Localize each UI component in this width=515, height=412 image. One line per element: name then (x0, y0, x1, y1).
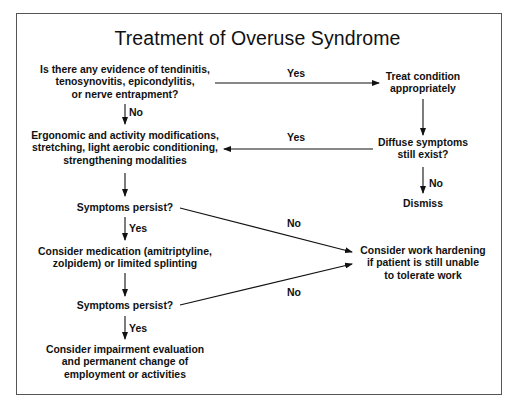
node-symptoms-persist-1: Symptoms persist? (55, 202, 195, 214)
node-dismiss: Dismiss (363, 198, 483, 210)
node-ergonomic-modifications: Ergonomic and activity modifications, st… (15, 130, 235, 167)
edge-label-no-evidence: No (129, 106, 143, 118)
node-evidence-question: Is there any evidence of tendinitis, ten… (20, 64, 230, 101)
edge-label-yes-persist2: Yes (129, 322, 147, 334)
node-impairment-evaluation: Consider impairment evaluation and perma… (20, 344, 230, 381)
node-symptoms-persist-2: Symptoms persist? (55, 300, 195, 312)
edge-label-no-diffuse: No (429, 177, 443, 189)
edge-label-yes-evidence: Yes (287, 67, 305, 79)
edge-label-no-persist1: No (287, 217, 301, 229)
node-diffuse-question: Diffuse symptoms still exist? (363, 137, 483, 162)
edge-label-no-persist2: No (287, 286, 301, 298)
node-treat-condition: Treat condition appropriately (363, 71, 483, 96)
node-consider-medication: Consider medication (amitriptyline, zolp… (20, 246, 230, 271)
node-work-hardening: Consider work hardening if patient is st… (348, 245, 498, 282)
edge-label-yes-diffuse: Yes (287, 131, 305, 143)
edge-label-yes-persist1: Yes (129, 222, 147, 234)
